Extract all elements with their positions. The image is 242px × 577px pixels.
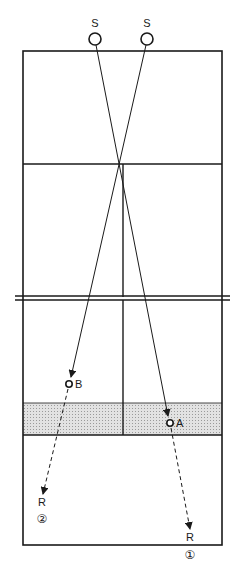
- point-a-label: A: [176, 417, 184, 429]
- court-diagram: S S B A R ② R ①: [0, 0, 242, 577]
- receiver-1-number: ①: [185, 548, 196, 562]
- return-path-a-to-r1: [171, 428, 190, 529]
- point-b-marker: [66, 381, 72, 387]
- serve-path-to-b: [71, 45, 146, 377]
- receiver-2-number: ②: [37, 512, 48, 526]
- point-b-label: B: [75, 378, 82, 390]
- server-right-marker: [141, 33, 153, 45]
- court-outline: [23, 51, 222, 545]
- server-left-marker: [89, 33, 101, 45]
- point-a-marker: [167, 420, 173, 426]
- receiver-2-label: R: [38, 496, 46, 508]
- serve-path-to-a: [96, 45, 168, 416]
- server-left-label: S: [91, 17, 98, 29]
- server-right-label: S: [143, 17, 150, 29]
- receiver-1-label: R: [186, 531, 194, 543]
